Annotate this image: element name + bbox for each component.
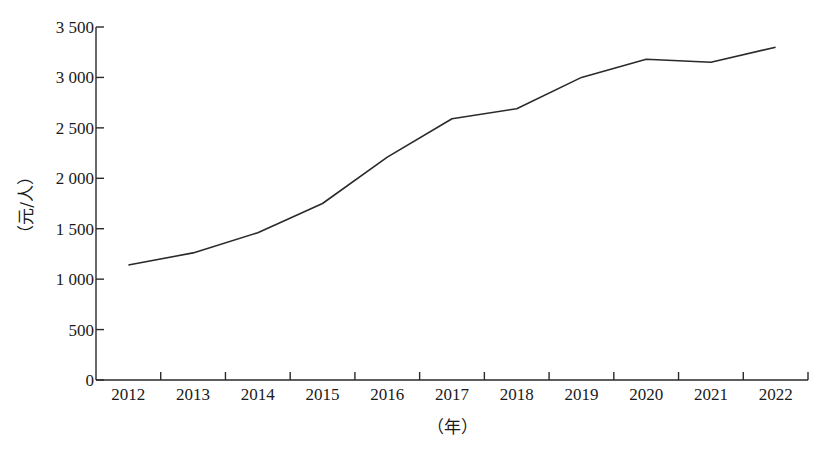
x-tick-label: 2015 bbox=[306, 385, 340, 404]
y-axis-title: （元/人） bbox=[16, 168, 36, 242]
y-tick-label: 3 000 bbox=[56, 68, 94, 87]
x-tick-label: 2012 bbox=[111, 385, 145, 404]
x-tick-label: 2017 bbox=[435, 385, 470, 404]
data-series bbox=[128, 47, 775, 265]
x-tick-label: 2022 bbox=[759, 385, 793, 404]
x-tick-label: 2019 bbox=[564, 385, 598, 404]
x-tick-label: 2020 bbox=[629, 385, 663, 404]
x-tick-label: 2013 bbox=[176, 385, 210, 404]
y-tick-label: 1 000 bbox=[56, 270, 94, 289]
y-tick-label: 0 bbox=[86, 371, 95, 390]
x-tick-label: 2016 bbox=[370, 385, 404, 404]
y-tick-label: 2 000 bbox=[56, 169, 94, 188]
x-axis-title: （年） bbox=[427, 417, 478, 437]
x-tick-label: 2014 bbox=[241, 385, 276, 404]
x-tick-label: 2018 bbox=[500, 385, 534, 404]
x-tick-label: 2021 bbox=[694, 385, 728, 404]
y-axis: 05001 0001 5002 0002 5003 0003 500 bbox=[56, 18, 104, 390]
y-tick-label: 500 bbox=[69, 321, 95, 340]
series-line bbox=[128, 47, 775, 265]
x-axis: 2012201320142015201620172018201920202021… bbox=[96, 372, 808, 404]
line-chart: 05001 0001 5002 0002 5003 0003 500 20122… bbox=[0, 0, 818, 454]
y-tick-label: 1 500 bbox=[56, 220, 94, 239]
y-tick-label: 2 500 bbox=[56, 119, 94, 138]
y-tick-label: 3 500 bbox=[56, 18, 94, 37]
